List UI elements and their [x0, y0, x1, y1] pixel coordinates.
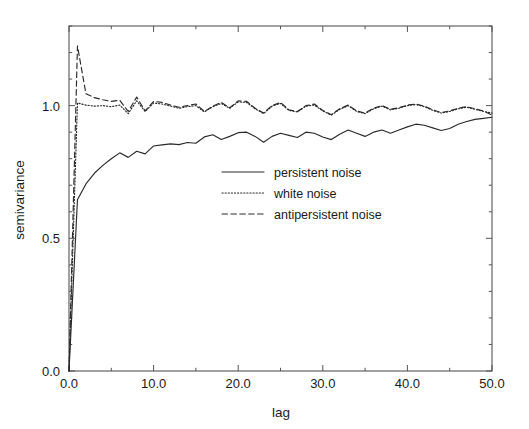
x-tick-label: 10.0	[141, 376, 166, 391]
x-tick-label: 30.0	[310, 376, 335, 391]
semivariogram-chart: 0.010.020.030.040.050.0 0.00.51.0 persis…	[0, 0, 529, 429]
y-axis-title: semivariance	[12, 160, 27, 240]
legend-label: persistent noise	[274, 166, 362, 180]
figure-container: 0.010.020.030.040.050.0 0.00.51.0 persis…	[0, 0, 529, 429]
y-tick-label: 0.0	[42, 364, 60, 379]
x-tick-label: 0.0	[60, 376, 78, 391]
chart-background	[0, 0, 529, 429]
legend-label: white noise	[273, 187, 337, 201]
x-tick-label: 20.0	[226, 376, 251, 391]
legend-label: antipersistent noise	[274, 208, 382, 222]
x-tick-label: 40.0	[395, 376, 420, 391]
y-tick-label: 0.5	[42, 231, 60, 246]
x-axis-title: lag	[272, 405, 290, 420]
x-tick-label: 50.0	[479, 376, 504, 391]
y-tick-label: 1.0	[42, 99, 60, 114]
